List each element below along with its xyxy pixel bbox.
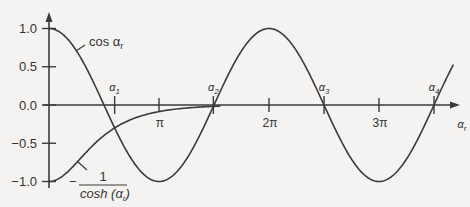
x-tick-label: π (156, 116, 164, 130)
y-tick-label: 1.0 (19, 21, 37, 36)
sech-label-numerator: 1 (99, 169, 106, 184)
x-axis-arrow-icon (450, 102, 460, 109)
y-tick-label: 0.0 (19, 98, 37, 113)
y-axis-arrow-icon (46, 12, 53, 22)
root-label-alpha-1: α1 (109, 81, 120, 96)
sech-label-denominator: cosh (αr) (80, 186, 130, 203)
cos-curve-label: cos αr (89, 34, 123, 51)
x-axis-label: αr (458, 118, 467, 133)
x-tick-label: 2π (263, 116, 278, 130)
labels: 1.00.50.0−0.5−1.0π2π3πα1α2α3α4αrcos αr−1… (11, 21, 466, 203)
chart-canvas: 1.00.50.0−0.5−1.0π2π3πα1α2α3α4αrcos αr−1… (0, 0, 470, 207)
cos-label-leader (76, 45, 85, 51)
root-label-alpha-4: α4 (429, 81, 440, 96)
sech-label-minus: − (69, 174, 77, 189)
y-tick-label: −0.5 (11, 136, 37, 151)
sech-label-leader (77, 161, 87, 170)
root-label-alpha-2: α2 (208, 81, 219, 96)
y-tick-label: −1.0 (11, 174, 37, 189)
x-tick-label: 3π (373, 116, 388, 130)
y-tick-label: 0.5 (19, 59, 37, 74)
root-label-alpha-3: α3 (319, 81, 330, 96)
